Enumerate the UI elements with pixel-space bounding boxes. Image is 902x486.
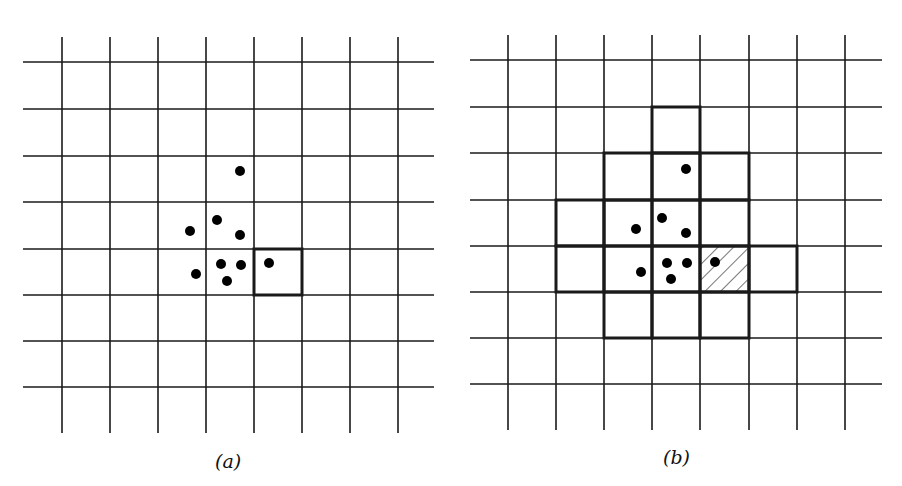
highlighted-cell xyxy=(700,200,749,246)
highlighted-cell xyxy=(254,249,302,295)
data-point xyxy=(236,260,246,270)
data-point xyxy=(666,274,676,284)
data-point xyxy=(631,224,641,234)
data-point xyxy=(636,267,646,277)
data-point xyxy=(682,258,692,268)
highlighted-cell xyxy=(700,292,749,338)
data-point xyxy=(185,226,195,236)
data-point xyxy=(710,257,720,267)
caption-a: (a) xyxy=(215,450,241,472)
data-point xyxy=(264,258,274,268)
data-point xyxy=(235,166,245,176)
panel-a xyxy=(23,37,434,433)
data-point xyxy=(657,213,667,223)
data-point xyxy=(681,164,691,174)
panel-b xyxy=(470,35,882,430)
highlighted-cell xyxy=(604,200,652,246)
data-point xyxy=(216,259,226,269)
figure-canvas xyxy=(0,0,902,486)
highlighted-cell xyxy=(604,292,652,338)
highlighted-cell xyxy=(652,292,700,338)
highlighted-cell xyxy=(749,246,797,292)
highlighted-cell xyxy=(652,107,700,153)
highlighted-cell xyxy=(556,200,604,246)
highlighted-cell xyxy=(604,153,652,200)
data-point xyxy=(681,228,691,238)
data-point xyxy=(235,230,245,240)
data-point xyxy=(212,215,222,225)
data-point xyxy=(222,276,232,286)
highlighted-cell xyxy=(556,246,604,292)
highlighted-cell xyxy=(652,246,700,292)
data-point xyxy=(191,269,201,279)
caption-b: (b) xyxy=(663,446,690,468)
hatched-cell xyxy=(700,246,749,292)
data-point xyxy=(662,258,672,268)
highlighted-cell xyxy=(652,200,700,246)
highlighted-cell xyxy=(652,153,700,200)
highlighted-cell xyxy=(700,153,749,200)
